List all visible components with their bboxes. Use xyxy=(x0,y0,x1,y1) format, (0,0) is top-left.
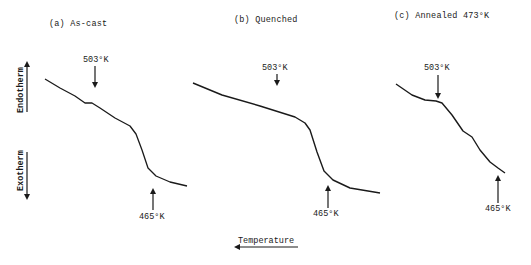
b-465-label: 465°K xyxy=(313,209,339,219)
curve-annealed xyxy=(396,84,505,173)
endotherm-label: Endotherm xyxy=(16,67,26,113)
curve-quenched xyxy=(193,83,380,193)
c-503-label: 503°K xyxy=(424,63,450,73)
temperature-label: Temperature xyxy=(238,236,294,246)
a-465-label: 465°K xyxy=(139,212,165,222)
panel-title-b: (b) Quenched xyxy=(234,15,298,25)
exotherm-label: Exotherm xyxy=(16,150,26,191)
dsc-figure: (a) As-cast (b) Quenched (c) Annealed 47… xyxy=(0,0,531,265)
curve-as-cast xyxy=(45,79,187,186)
a-503-label: 503°K xyxy=(83,55,109,65)
panel-title-a: (a) As-cast xyxy=(49,19,107,29)
b-503-label: 503°K xyxy=(262,63,288,73)
panel-title-c: (c) Annealed 473°K xyxy=(394,11,489,21)
c-465-label: 465°K xyxy=(485,204,511,214)
chart-canvas xyxy=(0,0,531,265)
